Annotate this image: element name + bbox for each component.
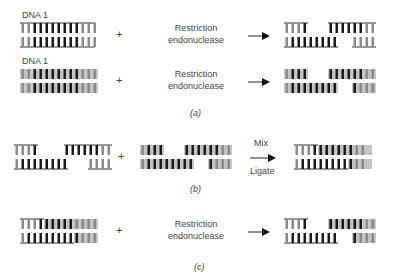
enzyme-line2: endonuclease <box>151 34 241 46</box>
caption-b: (b) <box>190 184 201 194</box>
recombinant-duplex-c <box>20 218 100 246</box>
arrow-icon <box>248 228 270 236</box>
dna1-cut-fragments-shaded <box>284 68 384 96</box>
enzyme-line1: Restriction <box>151 218 241 230</box>
caption-c: (c) <box>194 262 205 272</box>
arrow-icon <box>248 78 270 86</box>
enzyme-line2: endonuclease <box>151 230 241 242</box>
dna1-label: DNA 1 <box>22 10 48 20</box>
plus-sign-4: + <box>116 224 122 236</box>
enzyme-label-2: Restriction endonuclease <box>151 68 241 92</box>
caption-a: (a) <box>190 108 201 118</box>
mix-label: Mix <box>254 138 268 148</box>
dna1-label-2: DNA 1 <box>22 56 48 66</box>
dna1-cut-fragments-plain <box>284 22 384 50</box>
plain-fragments <box>14 144 114 172</box>
plus-sign-2: + <box>116 74 122 86</box>
dna1-duplex-plain <box>20 22 100 50</box>
enzyme-line2: endonuclease <box>151 80 241 92</box>
dna1-duplex-shaded <box>20 68 100 96</box>
recombinant-cut-fragments <box>284 218 384 246</box>
ligate-label: Ligate <box>250 166 275 176</box>
recombinant-duplex <box>294 144 394 172</box>
enzyme-label: Restriction endonuclease <box>151 22 241 46</box>
arrow-icon <box>248 32 270 40</box>
enzyme-label-3: Restriction endonuclease <box>151 218 241 242</box>
shaded-fragments <box>140 144 240 172</box>
arrow-icon <box>250 154 276 162</box>
enzyme-line1: Restriction <box>151 68 241 80</box>
enzyme-line1: Restriction <box>151 22 241 34</box>
plus-sign-3: + <box>118 150 124 162</box>
plus-sign: + <box>116 28 122 40</box>
